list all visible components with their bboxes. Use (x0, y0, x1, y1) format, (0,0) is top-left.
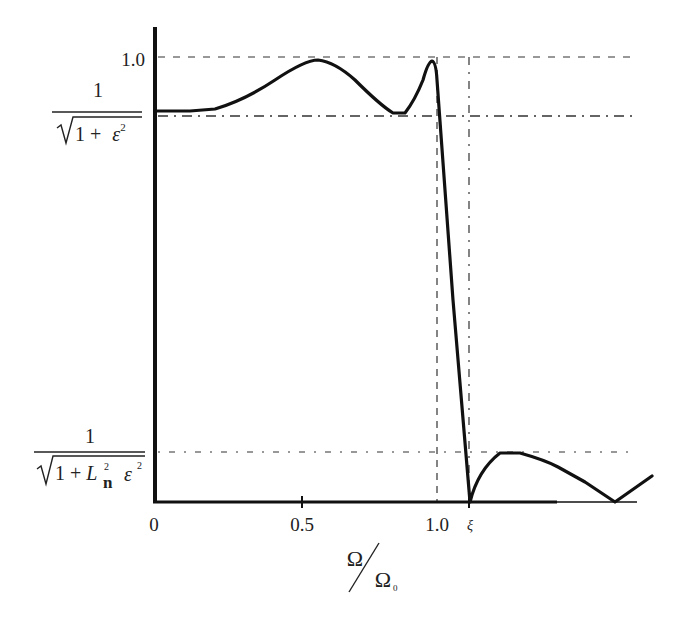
radicand-text: 1 + (55, 462, 86, 484)
x-tick-label-xi: ξ (467, 518, 473, 533)
L-superscript: 2 (104, 461, 109, 472)
epsilon-superscript: 2 (137, 460, 142, 471)
x-axis-title: Ω Ω 0 (347, 543, 398, 593)
x-axis-title-denominator: Ω (375, 567, 391, 592)
epsilon-symbol: ε (112, 123, 120, 145)
x-axis-title-subscript: 0 (393, 583, 398, 593)
y-label-stopband-numerator: 1 (85, 425, 95, 447)
y-label-unity: 1.0 (121, 49, 145, 70)
response-curve (155, 60, 652, 502)
y-label-passband-radicand: 1 + ε2 (75, 121, 126, 145)
L-subscript: n (103, 473, 113, 492)
x-axis-title-numerator: Ω (347, 546, 363, 571)
reference-lines (158, 57, 637, 502)
x-tick-label-1.0: 1.0 (425, 514, 449, 535)
axes (153, 27, 637, 508)
x-tick-label-0: 0 (149, 514, 159, 535)
y-label-stopband-radicand: 1 + L (55, 462, 97, 484)
radicand-text: 1 + (75, 123, 106, 145)
L-symbol: L (85, 462, 97, 484)
y-label-stopband: 1 1 + L 2 n ε 2 (34, 425, 145, 492)
exponent: 2 (120, 121, 126, 133)
elliptic-filter-response-chart: 1.0 1 1 + ε2 1 1 + L 2 n ε 2 0 0.5 1.0 ξ… (0, 0, 685, 619)
x-tick-label-0.5: 0.5 (290, 514, 314, 535)
y-label-passband-numerator: 1 (93, 79, 103, 101)
y-label-passband: 1 1 + ε2 (52, 79, 142, 145)
epsilon-symbol: ε (124, 463, 132, 485)
